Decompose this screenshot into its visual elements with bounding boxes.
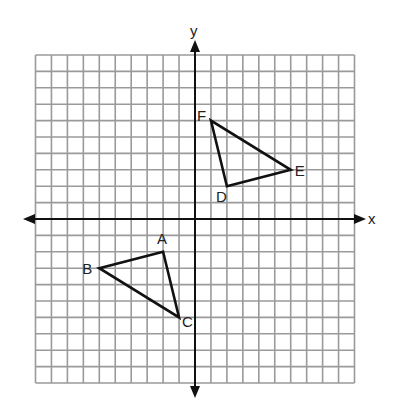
y-axis-arrow-up-icon: [190, 40, 200, 52]
vertex-label-d: D: [216, 188, 227, 205]
vertex-label-b: B: [82, 260, 92, 277]
x-axis-arrow-left-icon: [23, 214, 35, 224]
vertex-label-c: C: [182, 313, 193, 330]
vertex-label-a: A: [157, 230, 167, 247]
vertex-label-e: E: [295, 162, 305, 179]
vertex-label-f: F: [197, 107, 206, 124]
x-axis-arrow-right-icon: [354, 214, 366, 224]
y-axis-label: y: [190, 22, 198, 39]
x-axis-label: x: [368, 210, 376, 227]
coordinate-plane: x y ABCDEF: [0, 0, 397, 415]
y-axis-arrow-down-icon: [190, 386, 200, 398]
